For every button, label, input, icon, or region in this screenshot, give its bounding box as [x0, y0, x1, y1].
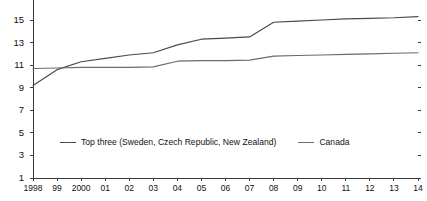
y-axis-tick-label: 15 [2, 15, 24, 25]
chart-plot-area [0, 0, 427, 201]
y-axis-tick-label: 17 [2, 0, 24, 2]
legend-swatch-top-three-icon [60, 142, 76, 143]
legend-label-canada: Canada [319, 137, 349, 147]
y-axis-tick-label: 13 [2, 38, 24, 48]
y-axis-tick-label: 1 [2, 173, 24, 183]
y-axis-tick-label: 9 [2, 83, 24, 93]
y-axis-tick-label: 11 [2, 60, 24, 70]
y-axis-tick-label: 7 [2, 105, 24, 115]
line-chart: 1357911131517 19989920000102030405060708… [0, 0, 427, 201]
x-axis-tick-label: 14 [403, 183, 427, 193]
chart-axes [30, 0, 421, 181]
legend-label-top-three: Top three (Sweden, Czech Republic, New Z… [81, 137, 276, 147]
series-line-top-three [33, 17, 418, 86]
legend-entry-top-three: Top three (Sweden, Czech Republic, New Z… [60, 137, 276, 147]
y-axis-tick-label: 3 [2, 150, 24, 160]
chart-legend: Top three (Sweden, Czech Republic, New Z… [60, 135, 349, 149]
chart-series-lines [33, 17, 418, 86]
legend-entry-canada: Canada [298, 137, 349, 147]
y-axis-tick-label: 5 [2, 128, 24, 138]
legend-swatch-canada-icon [298, 142, 314, 143]
